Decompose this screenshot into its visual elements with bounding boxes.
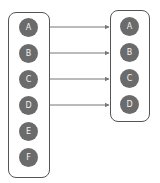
right-node-a: A [120,17,139,36]
left-node-a: A [19,18,38,37]
left-node-f: F [19,148,38,167]
right-node-b: B [120,43,139,62]
left-node-e: E [19,122,38,141]
right-node-d: D [120,95,139,114]
mapping-diagram: A B C D E F A B C D [0,0,160,183]
right-node-c: C [120,69,139,88]
left-node-d: D [19,96,38,115]
left-node-c: C [19,70,38,89]
left-node-b: B [19,44,38,63]
